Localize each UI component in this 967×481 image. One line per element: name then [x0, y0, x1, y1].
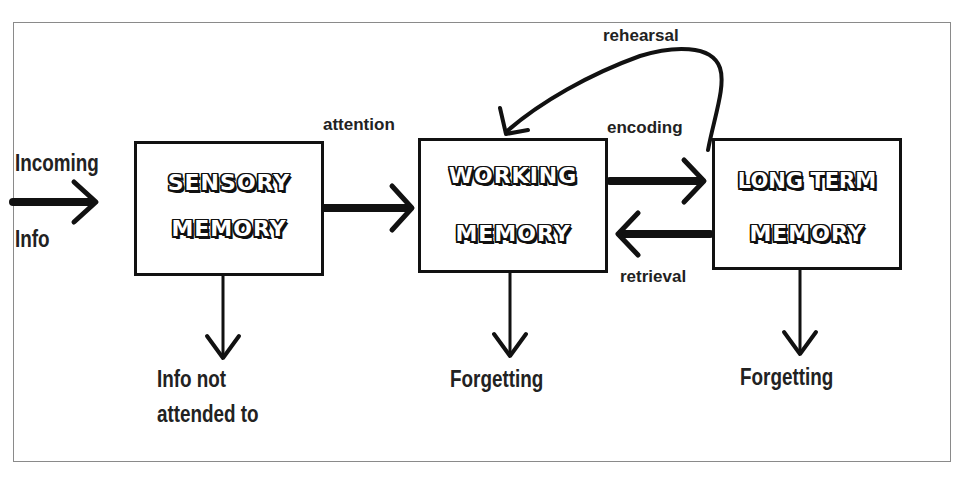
long-term-memory-box: LONG TERM MEMORY	[712, 138, 902, 270]
working-box-title-line2: MEMORY	[421, 221, 605, 246]
longterm-forgetting-label: Forgetting	[740, 364, 833, 391]
longterm-box-title-line1: LONG TERM	[715, 169, 899, 193]
info-label: Info	[15, 226, 50, 253]
working-forgetting-label: Forgetting	[450, 366, 543, 393]
rehearsal-arrow-head	[500, 108, 528, 134]
attention-label: attention	[323, 115, 395, 135]
incoming-label: Incoming	[15, 150, 99, 177]
longterm-box-title-line2: MEMORY	[715, 221, 899, 246]
retrieval-label: retrieval	[620, 267, 686, 287]
sensory-box-title-line1: SENSORY	[137, 170, 321, 195]
working-memory-box: WORKING MEMORY	[418, 138, 608, 273]
working-box-title-line1: WORKING	[421, 163, 605, 188]
info-not-attended-label-line1: Info not	[157, 366, 226, 393]
sensory-memory-box: SENSORY MEMORY	[134, 141, 324, 276]
rehearsal-label: rehearsal	[603, 26, 679, 46]
info-not-attended-label-line2: attended to	[157, 401, 259, 428]
encoding-label: encoding	[607, 118, 683, 138]
sensory-box-title-line2: MEMORY	[137, 216, 321, 241]
